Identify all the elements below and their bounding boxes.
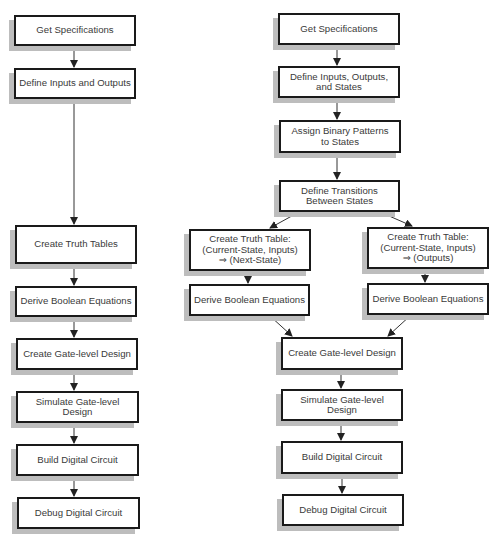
step-get-specifications-seq: Get Specifications bbox=[278, 13, 400, 45]
step-get-specifications: Get Specifications bbox=[14, 15, 136, 46]
step-derive-boolean-equations: Derive Boolean Equations bbox=[15, 286, 137, 317]
design-flow-diagram: Get Specifications Define Inputs and Out… bbox=[0, 0, 497, 558]
step-debug-digital-circuit: Debug Digital Circuit bbox=[17, 497, 140, 529]
step-derive-boolean-outputs: Derive Boolean Equations bbox=[367, 283, 489, 315]
step-assign-binary-patterns: Assign Binary Patterns to States bbox=[279, 120, 401, 153]
step-build-digital-circuit-seq: Build Digital Circuit bbox=[281, 441, 403, 474]
step-truth-table-next-state: Create Truth Table: (Current-State, Inpu… bbox=[189, 229, 311, 271]
step-simulate-gate-level-design: Simulate Gate-level Design bbox=[16, 391, 139, 423]
step-define-transitions: Define Transitions Between States bbox=[279, 180, 400, 212]
step-create-gate-level-design: Create Gate-level Design bbox=[16, 338, 138, 370]
step-truth-table-outputs: Create Truth Table: (Current-State, Inpu… bbox=[367, 227, 489, 269]
step-derive-boolean-next-state: Derive Boolean Equations bbox=[189, 284, 310, 316]
step-simulate-gate-level-design-seq: Simulate Gate-level Design bbox=[281, 389, 403, 421]
step-debug-digital-circuit-seq: Debug Digital Circuit bbox=[282, 494, 404, 526]
step-create-truth-tables: Create Truth Tables bbox=[15, 225, 137, 264]
step-define-inputs-outputs-states: Define Inputs, Outputs, and States bbox=[278, 66, 400, 98]
step-create-gate-level-design-seq: Create Gate-level Design bbox=[281, 337, 403, 370]
step-define-inputs-outputs: Define Inputs and Outputs bbox=[14, 68, 136, 99]
step-build-digital-circuit: Build Digital Circuit bbox=[16, 444, 139, 476]
